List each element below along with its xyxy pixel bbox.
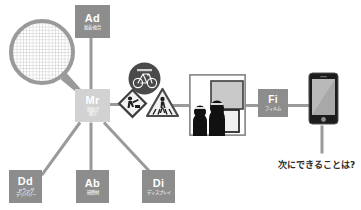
node-di-sub: ディスプレイ [147,191,171,196]
display-viewing-photo [189,74,246,136]
node-ad[interactable]: Ad 接着・接合 [75,5,110,38]
node-ad-sub: 接着・接合 [84,26,101,31]
node-dd-code: Dd [18,176,33,187]
node-mr-sub2: 粒子 [89,112,97,117]
diagram-canvas: Ad 接着・接合 Mr 微粒子 粒子 Dd ドラッグ デリバリー Ab 研磨材 … [0,0,361,210]
node-fi[interactable]: Fi フィルム [258,89,288,117]
node-ab-code: Ab [85,178,100,189]
node-di[interactable]: Di ディスプレイ [142,170,175,203]
connector-mr-to-di [103,121,152,174]
connector-mr-to-dd [41,122,82,176]
node-mr-code: Mr [85,95,99,106]
pedestrian-crossing-sign-icon [145,87,180,119]
node-ad-code: Ad [85,13,100,24]
connector-phone-to-caption [321,126,324,154]
roadwork-worker-sign-icon [117,88,148,119]
node-mr[interactable]: Mr 微粒子 粒子 [75,89,110,122]
node-dd[interactable]: Dd ドラッグ デリバリー [9,170,42,203]
node-ab-sub: 研磨材 [87,191,99,196]
node-ab[interactable]: Ab 研磨材 [76,170,109,203]
connector-mr-to-ab [90,123,93,173]
node-dd-sub2: デリバリー [16,193,36,198]
caption-next-step: 次にできることは? [278,158,355,171]
smartphone-icon[interactable] [308,72,339,125]
node-fi-sub: フィルム [265,107,281,112]
node-fi-code: Fi [268,95,278,105]
connector-mr-to-ad [90,38,93,92]
node-di-code: Di [153,178,165,189]
